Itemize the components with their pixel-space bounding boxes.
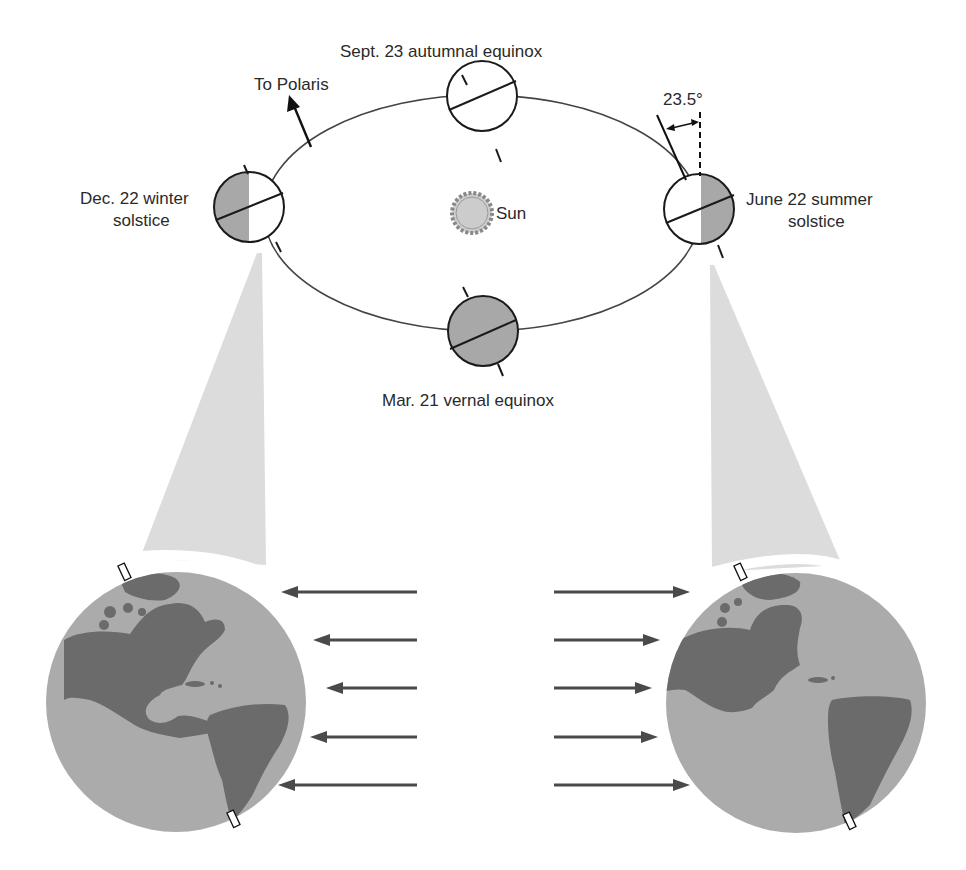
left-globe-winter (46, 555, 306, 832)
ray-left-1 (281, 586, 417, 598)
left-projection-cone (140, 253, 266, 565)
ray-left-3 (326, 682, 417, 694)
ray-left-2 (313, 634, 417, 646)
ray-right-4 (554, 731, 658, 743)
earth-vernal-equinox (448, 287, 518, 376)
polaris-label: To Polaris (254, 75, 329, 94)
sun-icon (452, 193, 492, 233)
right-projection-cone (710, 265, 842, 572)
tilt-angle-indicator (657, 112, 700, 180)
ray-left-5 (278, 779, 417, 791)
autumnal-equinox-label: Sept. 23 autumnal equinox (340, 42, 543, 61)
ray-left-4 (310, 731, 417, 743)
ray-right-3 (554, 682, 652, 694)
polaris-arrow (287, 95, 311, 147)
winter-solstice-label-line1: Dec. 22 winter (80, 189, 189, 208)
ray-right-2 (554, 634, 660, 646)
summer-solstice-label-line1: June 22 summer (746, 190, 873, 209)
summer-solstice-label-line2: solstice (788, 212, 845, 231)
winter-solstice-label-line2: solstice (113, 211, 170, 230)
ray-right-1 (554, 586, 690, 598)
earth-autumnal-equinox (447, 61, 517, 162)
seasons-diagram: To Polaris Sept. 23 autumnal equinox Dec… (0, 0, 966, 870)
sun-label: Sun (496, 204, 526, 223)
vernal-equinox-label: Mar. 21 vernal equinox (382, 391, 554, 410)
ray-right-5 (554, 779, 690, 791)
earth-summer-solstice (664, 172, 737, 258)
right-globe-summer (665, 559, 930, 833)
tilt-angle-label: 23.5° (663, 90, 703, 109)
